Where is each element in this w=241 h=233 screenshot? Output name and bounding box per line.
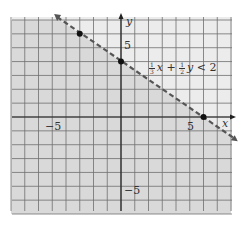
x-axis-arrow-icon — [230, 115, 236, 120]
data-point — [201, 114, 207, 120]
plus-sign: + — [163, 61, 179, 74]
inequality-graph — [0, 0, 241, 233]
x-tick-label-pos5: 5 — [187, 121, 194, 132]
fraction-one-third: 13 — [149, 62, 155, 75]
fraction-denominator: 3 — [149, 69, 155, 75]
y-tick-label-pos5: 5 — [124, 40, 131, 51]
x-axis-label: x — [222, 118, 228, 129]
fraction-denominator: 2 — [179, 69, 185, 75]
inequality-label: 13x + 12y < 2 — [149, 61, 217, 75]
y-axis-label: y — [126, 16, 132, 27]
data-point — [118, 59, 124, 65]
y-tick-label-neg5: −5 — [124, 185, 140, 196]
fraction-one-half: 12 — [179, 62, 185, 75]
x-tick-label-neg5: −5 — [45, 121, 61, 132]
inequality-rest: < 2 — [193, 61, 216, 74]
data-point — [77, 31, 83, 37]
y-axis-arrow-icon — [119, 13, 124, 19]
